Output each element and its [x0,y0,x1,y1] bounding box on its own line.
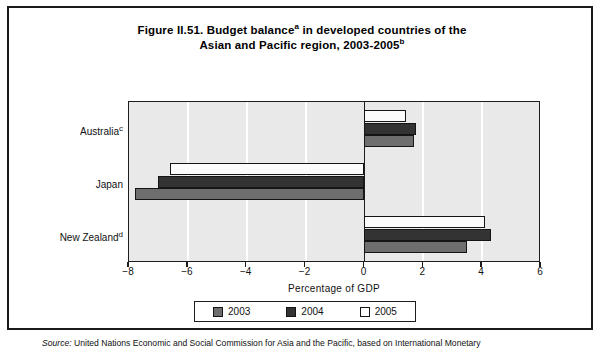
x-axis-label--4: −4 [226,266,266,277]
bar-australia-2003 [364,135,414,147]
x-axis-label-0: 0 [343,266,383,277]
x-axis-label--6: −6 [167,266,207,277]
figure-title-footnote-b: b [400,37,405,46]
source-note: Source: United Nations Economic and Soci… [42,338,587,349]
figure-title-text-2: Asian and Pacific region, 2003-2005 [199,39,399,51]
legend-label-2004: 2004 [301,306,323,317]
figure-title: Figure II.51. Budget balancea in develop… [9,23,595,53]
category-label-japan-text: Japan [96,179,123,190]
x-axis-label--8: −8 [108,266,148,277]
category-label-australia: Australiac [13,126,123,137]
category-label-japan: Japan [13,179,123,190]
bar-new-zealand-2005 [364,216,485,228]
legend-label-2003: 2003 [228,306,250,317]
category-label-australia-text: Australia [80,126,119,137]
figure-title-text-1b: in developed countries of the [299,24,466,36]
plot-inner [129,102,539,261]
legend-swatch-2005 [360,307,370,317]
figure-page: Figure II.51. Budget balancea in develop… [0,0,603,363]
figure-title-line-1: Figure II.51. Budget balancea in develop… [9,23,595,38]
category-label-new-zealand-text: New Zealand [60,232,119,243]
legend-item-2005[interactable]: 2005 [360,306,397,317]
category-label-new-zealand: New Zealandd [13,232,123,243]
x-axis-label--2: −2 [285,266,325,277]
figure-container: Figure II.51. Budget balancea in develop… [7,6,593,330]
category-label-new-zealand-footnote: d [119,230,123,239]
legend-swatch-2004 [286,307,296,317]
figure-title-line-2: Asian and Pacific region, 2003-2005b [9,38,595,53]
source-text: United Nations Economic and Social Commi… [74,338,481,348]
bar-japan-2004 [158,176,364,188]
plot-area [128,101,540,262]
x-axis-title: Percentage of GDP [128,283,540,294]
category-label-australia-footnote: c [119,124,123,133]
bar-australia-2005 [364,110,405,122]
bar-new-zealand-2003 [364,241,467,253]
bar-japan-2003 [135,188,365,200]
legend-label-2005: 2005 [375,306,397,317]
bar-new-zealand-2004 [364,229,491,241]
bar-japan-2005 [170,163,364,175]
source-label: Source: [42,338,72,348]
legend-item-2003[interactable]: 2003 [213,306,250,317]
category-axis-labels: Australiac Japan New Zealandd [9,101,123,262]
x-axis-label-2: 2 [402,266,442,277]
legend-item-2004[interactable]: 2004 [286,306,323,317]
legend-swatch-2003 [213,307,223,317]
figure-title-text-1: Figure II.51. Budget balance [138,24,295,36]
legend: 2003 2004 2005 [194,301,416,322]
bar-australia-2004 [364,123,416,135]
x-axis-label-6: 6 [520,266,560,277]
x-axis-label-4: 4 [461,266,501,277]
